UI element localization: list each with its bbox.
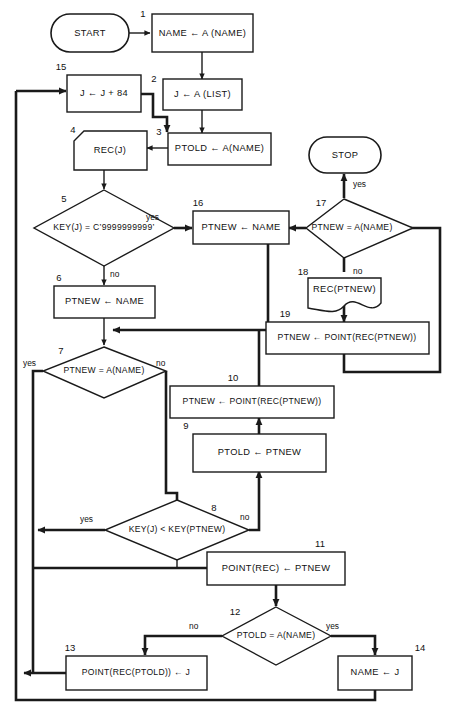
- node-9-number: 9: [183, 420, 188, 431]
- node-11-label: POINT(REC) ← PTNEW: [222, 563, 331, 573]
- node-6-number: 6: [56, 272, 61, 283]
- node-7-number: 7: [58, 345, 63, 356]
- edge-12-no-to-13: [145, 636, 222, 655]
- node-4-label: REC(J): [94, 145, 127, 155]
- node-12-yes-label: yes: [326, 621, 339, 631]
- node-12-number: 12: [230, 606, 241, 617]
- node-3[interactable]: PTOLD ← A(NAME) 3: [156, 126, 271, 165]
- node-17-no-label: no: [353, 266, 363, 276]
- node-2-number: 2: [151, 73, 156, 84]
- node-7-no-label: no: [156, 358, 166, 368]
- node-10[interactable]: PTNEW ← POINT(REC(PTNEW)) 10: [170, 372, 334, 418]
- node-stop[interactable]: STOP: [309, 137, 381, 173]
- node-17-label: PTNEW = A(NAME): [311, 222, 392, 232]
- node-1-label: NAME ← A (NAME): [159, 28, 246, 38]
- node-8-yes-label: yes: [80, 514, 93, 524]
- node-9[interactable]: PTOLD ← PTNEW 9: [183, 420, 326, 472]
- node-11-number: 11: [315, 538, 325, 549]
- node-7[interactable]: PTNEW = A(NAME) 7 yes no: [23, 345, 166, 398]
- node-17[interactable]: PTNEW = A(NAME) 17 yes no: [306, 179, 413, 276]
- node-14-number: 14: [415, 642, 426, 653]
- node-14-label: NAME ← J: [351, 667, 400, 677]
- node-10-number: 10: [228, 372, 239, 383]
- edge-12-yes-to-14: [331, 636, 375, 655]
- node-4[interactable]: REC(J) 4: [70, 124, 147, 170]
- node-7-yes-label: yes: [23, 358, 36, 368]
- node-2[interactable]: J ← A (LIST) 2: [151, 73, 242, 110]
- node-13-label: POINT(REC(PTOLD)) ← J: [82, 667, 190, 677]
- node-19[interactable]: PTNEW ← POINT(REC(PTNEW)) 19: [266, 308, 429, 354]
- edge-14-bottom-return: [16, 690, 375, 700]
- node-16-label: PTNEW ← NAME: [201, 222, 280, 232]
- node-5-no-label: no: [110, 269, 120, 279]
- node-16[interactable]: PTNEW ← NAME 16: [193, 197, 289, 244]
- node-16-number: 16: [193, 197, 204, 208]
- node-14[interactable]: NAME ← J 14: [338, 642, 425, 690]
- node-5-number: 5: [61, 193, 66, 204]
- node-12-no-label: no: [189, 621, 199, 631]
- node-2-label: J ← A (LIST): [174, 89, 231, 99]
- node-17-number: 17: [316, 197, 327, 208]
- node-4-number: 4: [70, 124, 75, 135]
- node-13-number: 13: [65, 642, 76, 653]
- node-1[interactable]: NAME ← A (NAME) 1: [140, 8, 253, 52]
- node-10-label: PTNEW ← POINT(REC(PTNEW)): [183, 396, 322, 406]
- node-12-label: PTOLD = A(NAME): [237, 630, 316, 640]
- node-6-label: PTNEW ← NAME: [65, 296, 144, 306]
- node-18-label: REC(PTNEW): [313, 284, 376, 294]
- node-13[interactable]: POINT(REC(PTOLD)) ← J 13: [65, 642, 207, 690]
- node-15-label: J ← J + 84: [80, 88, 128, 98]
- node-8[interactable]: KEY(J) < KEY(PTNEW) 8 yes no: [80, 500, 250, 560]
- node-5-yes-label: yes: [146, 212, 159, 222]
- node-19-label: PTNEW ← POINT(REC(PTNEW)): [278, 332, 417, 342]
- node-9-label: PTOLD ← PTNEW: [218, 447, 301, 457]
- edge-8-no-to-9: [249, 471, 259, 530]
- node-7-label: PTNEW = A(NAME): [63, 365, 144, 375]
- stop-label: STOP: [332, 150, 359, 160]
- node-5[interactable]: KEY(J) = C’9999999999’ 5 yes no: [34, 190, 174, 279]
- node-19-number: 19: [280, 308, 291, 319]
- node-18[interactable]: REC(PTNEW) 18: [298, 266, 381, 312]
- node-11[interactable]: POINT(REC) ← PTNEW 11: [207, 538, 345, 585]
- node-3-number: 3: [156, 126, 161, 137]
- node-8-no-label: no: [240, 512, 250, 522]
- node-15-number: 15: [56, 61, 67, 72]
- node-8-number: 8: [211, 502, 216, 513]
- node-5-label: KEY(J) = C’9999999999’: [53, 222, 154, 232]
- flowchart-canvas: START STOP NAME ← A (NAME) 1 J ← A (LIST…: [0, 0, 458, 717]
- edge-7-yes: [33, 371, 43, 673]
- node-17-yes-label: yes: [353, 179, 366, 189]
- node-1-number: 1: [140, 8, 145, 19]
- node-15[interactable]: J ← J + 84 15: [56, 61, 141, 112]
- node-3-label: PTOLD ← A(NAME): [175, 143, 264, 153]
- node-start[interactable]: START: [51, 14, 129, 52]
- node-8-label: KEY(J) < KEY(PTNEW): [129, 524, 226, 534]
- start-label: START: [74, 28, 105, 38]
- node-18-number: 18: [298, 266, 309, 277]
